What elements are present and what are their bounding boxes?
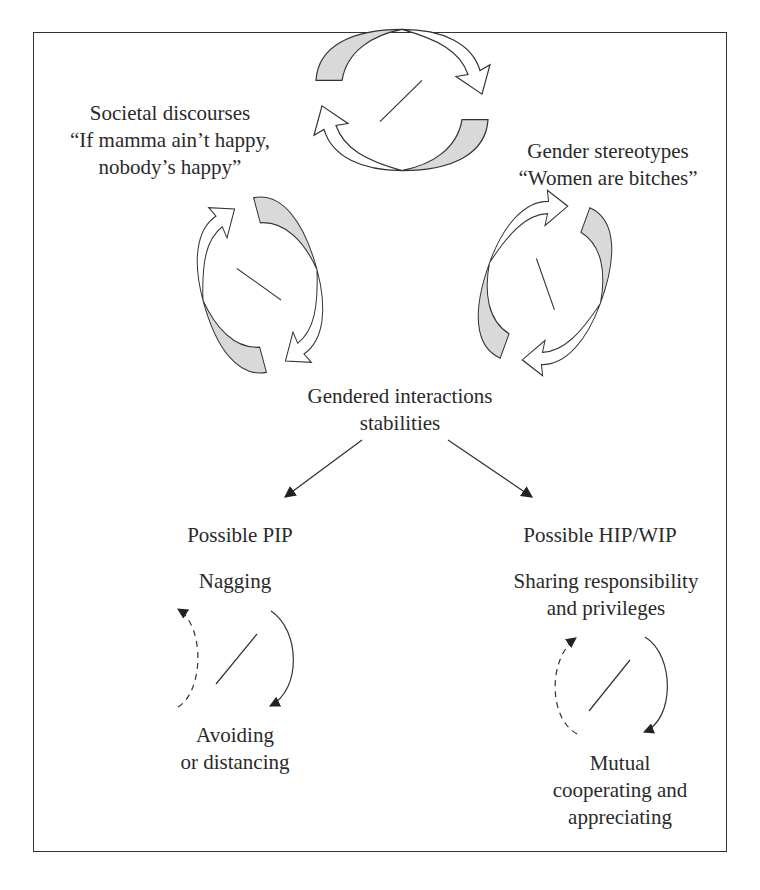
cycle-left-icon <box>180 185 340 386</box>
pip-bottom-line-2: or distancing <box>150 749 320 776</box>
hip-bottom-line-2: cooperating and <box>530 777 710 804</box>
arrow-to-hip <box>448 440 532 497</box>
gendered-interactions-label: Gendered interactions stabilities <box>270 383 530 437</box>
hip-top-line-2: and privileges <box>495 595 717 622</box>
gendered-line-1: Gendered interactions <box>270 383 530 410</box>
pip-bottom-label: Avoiding or distancing <box>150 722 320 776</box>
cycle-top-icon <box>314 29 490 170</box>
gender-title: Gender stereotypes <box>488 138 728 165</box>
hip-cycle-icon <box>555 637 667 734</box>
societal-discourses-label: Societal discourses “If mamma ain’t happ… <box>40 100 300 181</box>
pip-bottom-line-1: Avoiding <box>150 722 320 749</box>
hip-top-label: Sharing responsibility and privileges <box>495 568 717 622</box>
pip-cycle-icon <box>178 609 293 707</box>
societal-quote-line-1: “If mamma ain’t happy, <box>40 127 300 154</box>
arrow-to-pip <box>285 440 362 497</box>
gender-stereotypes-label: Gender stereotypes “Women are bitches” <box>488 138 728 192</box>
hip-bottom-line-3: appreciating <box>530 804 710 831</box>
hip-title: Possible HIP/WIP <box>500 522 700 549</box>
societal-quote-line-2: nobody’s happy” <box>40 154 300 181</box>
hip-bottom-line-1: Mutual <box>530 750 710 777</box>
gender-quote: “Women are bitches” <box>488 165 728 192</box>
societal-title: Societal discourses <box>40 100 300 127</box>
hip-bottom-label: Mutual cooperating and appreciating <box>530 750 710 831</box>
pip-top-label: Nagging <box>160 568 310 595</box>
gendered-line-2: stabilities <box>270 410 530 437</box>
pip-title: Possible PIP <box>160 522 320 549</box>
hip-top-line-1: Sharing responsibility <box>495 568 717 595</box>
cycle-right-icon <box>459 180 630 386</box>
